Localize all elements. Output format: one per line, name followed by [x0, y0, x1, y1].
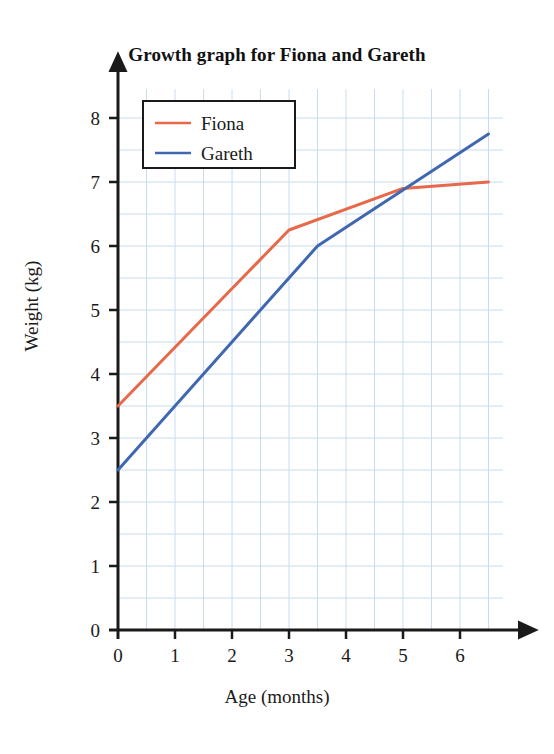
growth-chart: Growth graph for Fiona and Gareth Weight…: [0, 0, 554, 754]
plot-area: 0123456780123456 FionaGareth: [0, 0, 554, 754]
x-axis-tick-label: 4: [341, 645, 351, 666]
y-axis-tick-label: 5: [91, 300, 101, 321]
x-axis-tick-label: 6: [455, 645, 465, 666]
chart-legend: FionaGareth: [143, 101, 295, 168]
legend-label-gareth: Gareth: [201, 143, 253, 164]
y-axis-tick-label: 3: [91, 428, 101, 449]
data-series: [118, 134, 489, 470]
x-axis-tick-label: 0: [113, 645, 123, 666]
x-axis-tick-label: 1: [170, 645, 180, 666]
y-axis-tick-label: 6: [91, 236, 101, 257]
y-axis-tick-label: 7: [91, 172, 101, 193]
x-axis-tick-label: 2: [227, 645, 237, 666]
series-line-gareth: [118, 134, 489, 470]
x-axis-tick-label: 5: [398, 645, 408, 666]
series-line-fiona: [118, 182, 489, 406]
legend-label-fiona: Fiona: [201, 113, 245, 134]
axis-ticks: [109, 118, 460, 639]
x-axis-tick-label: 3: [284, 645, 294, 666]
y-axis-tick-label: 4: [91, 364, 101, 385]
y-axis-tick-label: 2: [91, 492, 101, 513]
y-axis-tick-label: 8: [91, 108, 101, 129]
y-axis-tick-label: 1: [91, 556, 101, 577]
y-axis-tick-label: 0: [91, 620, 101, 641]
gridlines: [118, 89, 503, 630]
